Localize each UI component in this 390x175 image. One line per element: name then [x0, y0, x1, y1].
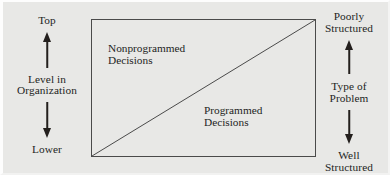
right-axis-bottom-label-line2: Structured	[325, 162, 373, 174]
right-axis-bottom-label: Well Structured	[325, 150, 373, 173]
arrow-down-icon	[43, 102, 52, 138]
arrow-shaft	[46, 39, 48, 68]
nonprogrammed-line1: Nonprogrammed	[108, 42, 185, 54]
right-axis-title: Type of Problem	[330, 81, 369, 104]
nonprogrammed-line2: Decisions	[108, 54, 185, 66]
arrow-shaft	[46, 102, 48, 131]
left-axis-title: Level in Organization	[17, 74, 77, 97]
decision-matrix-figure: Top Level in Organization Lower Nonprogr…	[0, 0, 390, 175]
arrow-shaft	[348, 110, 350, 137]
programmed-decisions-label: Programmed Decisions	[204, 104, 262, 128]
right-axis: Poorly Structured Type of Problem Well S…	[310, 2, 388, 175]
arrow-shaft	[348, 47, 350, 74]
right-axis-title-line2: Problem	[330, 93, 369, 105]
programmed-line2: Decisions	[204, 116, 262, 128]
left-axis-title-line2: Organization	[17, 85, 77, 97]
right-axis-title-line1: Type of	[330, 81, 369, 93]
nonprogrammed-decisions-label: Nonprogrammed Decisions	[108, 42, 185, 66]
left-axis: Top Level in Organization Lower	[5, 2, 89, 175]
arrow-down-icon	[345, 110, 354, 144]
right-axis-bottom-label-line1: Well	[325, 150, 373, 162]
right-axis-top-label: Poorly Structured	[325, 11, 373, 34]
left-axis-bottom-label: Lower	[32, 144, 62, 156]
arrow-head	[345, 134, 353, 144]
left-axis-top-label: Top	[38, 15, 56, 27]
right-axis-top-label-line2: Structured	[325, 23, 373, 35]
programmed-line1: Programmed	[204, 104, 262, 116]
arrow-head	[43, 128, 51, 138]
arrow-up-icon	[43, 32, 52, 68]
right-axis-top-label-line1: Poorly	[325, 11, 373, 23]
matrix-box: Nonprogrammed Decisions Programmed Decis…	[91, 19, 316, 157]
arrow-up-icon	[345, 40, 354, 74]
diagonal-divider-line	[92, 20, 315, 156]
